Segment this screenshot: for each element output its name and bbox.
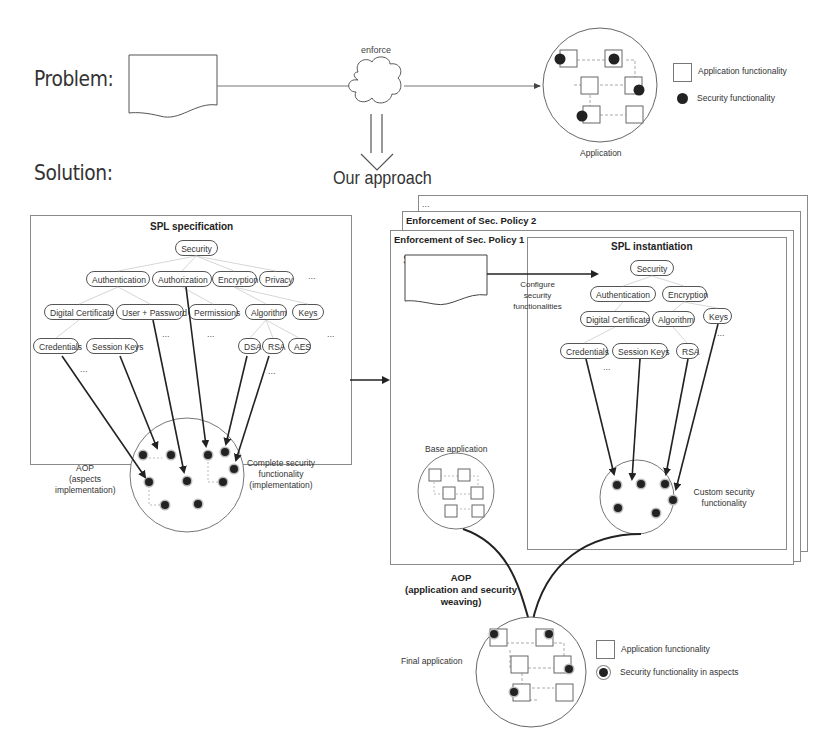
spec-node-permissions: Permissions (188, 304, 238, 320)
spec-node-security: Security (175, 240, 218, 256)
spec-node-authorization: Authorization (152, 271, 212, 287)
inst-node-session-keys: Session Keys (612, 343, 668, 359)
spl-instantiation-title: SPL instantiation (611, 241, 693, 252)
inst-node-keys: Keys (703, 308, 732, 324)
spec-ellipsis: ... (80, 364, 88, 374)
spl-specification-title: SPL specification (150, 221, 233, 232)
inst-node-authentication: Authentication (590, 286, 656, 302)
filled-circle-icon (677, 93, 688, 104)
complete-security-label: Complete security functionality (impleme… (246, 458, 316, 491)
enforcement-more-ellipsis: ... (422, 199, 430, 209)
spec-node-rsa: RSA (262, 338, 284, 354)
aop-aspects-label: AOP (aspects implementation) (55, 463, 115, 496)
inst-node-rsa: RSA (676, 343, 699, 359)
spec-node-privacy: Privacy (259, 271, 294, 287)
gap-label: GAP (364, 77, 387, 89)
our-approach-label: Our approach (333, 167, 432, 189)
inst-node-security: Security (630, 260, 674, 276)
spec-ellipsis: ... (268, 366, 276, 376)
spec-node-session-keys: Session Keys (86, 338, 138, 354)
spec-node-user-password: User + Password (116, 304, 184, 320)
base-application-label: Base application (425, 444, 487, 455)
enforce-label: enforce (361, 45, 391, 55)
spec-node-credentials: Credentials (33, 338, 79, 354)
legend-app-functionality: Application functionality (698, 66, 787, 77)
legend-security-aspects: Security functionality in aspects (620, 667, 739, 678)
spec-ellipsis: ... (162, 329, 170, 339)
inst-node-encryption: Encryption (662, 286, 707, 302)
final-application-label: Final application (401, 656, 462, 667)
inst-ellipsis: ... (603, 362, 611, 372)
inst-node-digital-certificate: Digital Certificate (580, 311, 650, 327)
square-icon (596, 640, 615, 659)
spec-ellipsis: ... (327, 329, 335, 339)
security-policy-spec-doc-label: Security policy specification (403, 252, 487, 284)
inst-ellipsis: ... (717, 328, 725, 338)
configure-security-label: Configure security functionalities (510, 279, 565, 312)
enforcement-policy1-title: Enforcement of Sec. Policy 1 (394, 234, 524, 245)
spec-node-encryption: Encryption (212, 271, 257, 287)
spec-ellipsis: ... (207, 329, 215, 339)
spec-node-digital-certificate: Digital Certificate (44, 304, 114, 320)
spec-ellipsis: ... (212, 500, 220, 510)
spec-node-authentication: Authentication (86, 271, 150, 287)
solution-label: Solution: (34, 160, 113, 185)
spec-node-keys: Keys (292, 304, 324, 320)
ringed-circle-icon (599, 668, 608, 677)
spec-ellipsis: ... (308, 271, 316, 281)
spec-node-algorithm: Algorithm (245, 304, 287, 320)
custom-security-label: Custom security functionality (690, 487, 758, 509)
down-arrow-icon (361, 114, 393, 170)
security-policies-doc-label: Security policies (136, 60, 218, 71)
application-label: Application (580, 148, 622, 159)
spec-node-aes: AES (288, 338, 311, 354)
inst-node-credentials: Credentials (560, 343, 608, 359)
legend-app-functionality-bottom: Application functionality (621, 644, 710, 655)
inst-node-algorithm: Algorithm (652, 311, 695, 327)
legend-security-functionality: Security functionality (697, 93, 775, 104)
spec-node-dsa: DSA (238, 338, 261, 354)
square-icon (673, 63, 692, 82)
enforcement-policy2-title: Enforcement of Sec. Policy 2 (406, 215, 536, 226)
aop-weaving-label: AOP (application and security weaving) (405, 572, 517, 608)
problem-label: Problem: (34, 66, 113, 91)
